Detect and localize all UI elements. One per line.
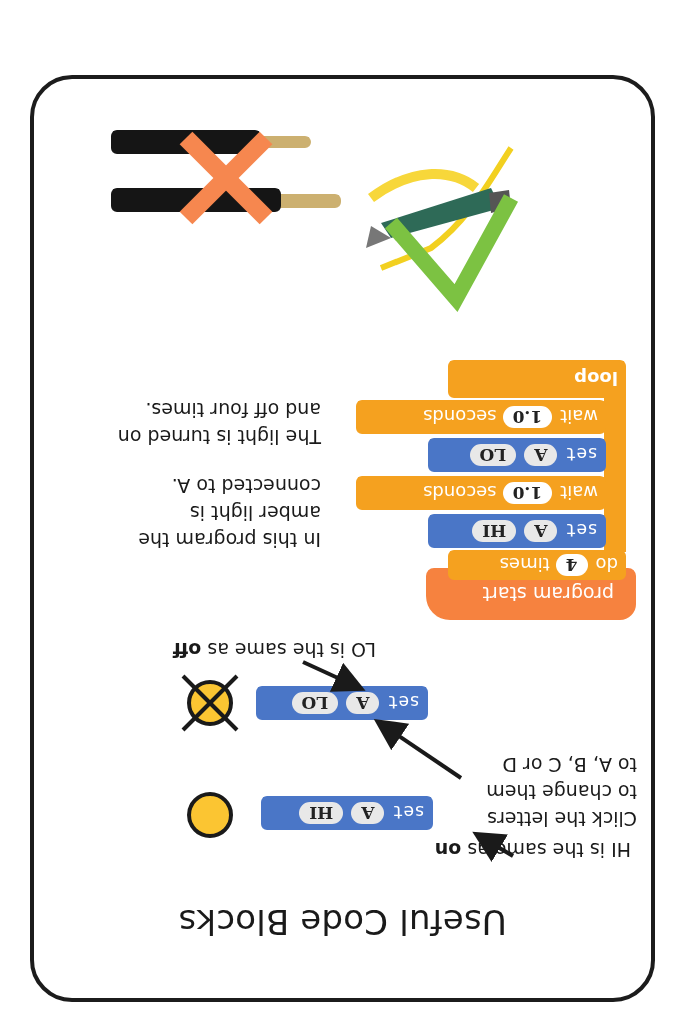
loop-step-set-hi[interactable]: set A HI [428,514,606,548]
description-line: In this program the [61,526,321,553]
description-line: The light is turned on [61,423,321,450]
unit-label: seconds [423,407,497,428]
unit-label: seconds [423,483,497,504]
description-line: amber light is [61,499,321,526]
repeat-count-input[interactable]: 4 [556,554,588,576]
state-selector[interactable]: LO [470,444,517,466]
description-line: connected to A. [61,472,321,499]
wait-seconds-input[interactable]: 1.0 [503,482,553,504]
loop-step-wait-1[interactable]: wait 1.0 seconds [356,476,606,510]
loop-bracket [604,384,626,552]
rotated-card-stage: Useful Code Blocks HI is the same as on … [0,0,698,1028]
block-keyword: wait [560,407,598,428]
times-label: times [500,555,550,576]
program-start-label: program start [483,583,614,605]
loop-label: loop [574,369,618,390]
loop-step-set-lo[interactable]: set A LO [428,438,606,472]
pin-selector[interactable]: A [524,444,557,466]
block-keyword: set [565,445,598,466]
check-icon [376,178,526,308]
hi-arrow [486,840,513,856]
block-keyword: set [565,521,598,542]
state-selector[interactable]: HI [472,520,516,542]
useful-code-blocks-card: Useful Code Blocks HI is the same as on … [30,75,655,1002]
wait-seconds-input[interactable]: 1.0 [503,406,553,428]
spacer [61,450,321,472]
cross-icon [176,128,276,228]
program-description: In this program the amber light is conne… [61,396,321,553]
do-label: do [596,555,618,576]
description-line: and off four times. [61,396,321,423]
do-times-block[interactable]: do 4 times [448,550,626,580]
block-keyword: wait [560,483,598,504]
loop-step-wait-2[interactable]: wait 1.0 seconds [356,400,606,434]
loop-end-block[interactable]: loop [448,360,626,398]
pin-selector[interactable]: A [524,520,557,542]
